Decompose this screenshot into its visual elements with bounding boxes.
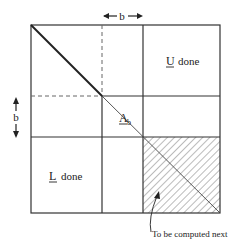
a-block-label: A b [119, 111, 131, 127]
u-done-text: done [178, 55, 200, 67]
block-height-indicator: b [13, 97, 19, 138]
u-symbol: U [166, 54, 175, 68]
lu-block-diagram: b b U done A b L done To be computed nex… [0, 0, 238, 249]
diagonal-done [31, 25, 102, 96]
u-done-label: U done [166, 54, 200, 68]
l-done-text: done [61, 170, 83, 182]
a-subscript: b [127, 118, 131, 127]
next-annotation-text: To be computed next [152, 229, 228, 239]
l-done-label: L done [49, 169, 83, 183]
l-symbol: L [49, 169, 56, 183]
block-width-indicator: b [103, 10, 143, 22]
block-height-label: b [13, 111, 19, 123]
block-width-label: b [119, 10, 125, 22]
